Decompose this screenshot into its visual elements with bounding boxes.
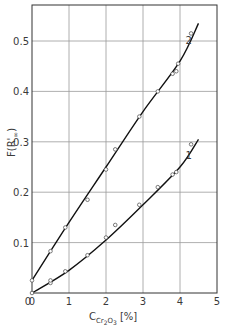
data-point [175,69,179,73]
x-tick-label: 1 [66,296,72,307]
data-point [86,198,90,202]
curve-label-1: 1 [186,150,192,161]
data-point [171,173,175,177]
data-point [138,203,142,207]
data-point [30,279,34,283]
data-point [113,223,117,227]
data-point [189,143,193,147]
grid-lines [32,5,217,293]
data-point [49,249,53,253]
data-point [138,115,142,119]
data-point [104,168,108,172]
x-tick-label: 2 [103,296,109,307]
data-point [175,170,179,174]
curve-1 [32,139,199,293]
data-point [86,253,90,257]
curves [32,23,199,293]
x-axis-label: CCr2O3[%] [89,311,137,326]
y-tick-label: 0.5 [13,36,29,47]
data-points [30,32,193,295]
data-point [49,279,53,283]
data-point [64,226,68,230]
y-tick-label: 0.4 [13,86,29,97]
y-axis-ticks: 00.10.20.30.40.5 [13,36,31,307]
y-tick-label: 0 [25,296,31,307]
data-point [30,291,34,295]
curve-label-2: 2 [186,35,192,46]
data-point [171,72,175,76]
y-tick-label: 0.1 [13,238,29,249]
data-point [156,185,160,189]
data-point [64,270,68,274]
data-point [156,90,160,94]
x-tick-label: 5 [214,296,220,307]
x-tick-label: 4 [177,296,183,307]
plot-frame [32,5,217,293]
data-point [104,236,108,240]
data-point [113,148,117,152]
curve-2 [32,23,199,280]
x-axis-ticks: 012345 [29,296,220,307]
data-point [176,62,180,66]
y-tick-label: 0.2 [13,187,29,198]
chart: 012345 00.10.20.30.40.5 21 CCr2O3[%] F(R… [0,0,228,327]
x-tick-label: 3 [140,296,146,307]
